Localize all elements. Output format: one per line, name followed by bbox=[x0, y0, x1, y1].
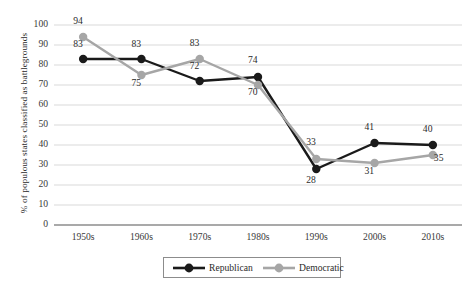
data-point-democratic-1990s[interactable] bbox=[312, 155, 320, 163]
y-tick-label: 60 bbox=[16, 98, 48, 109]
data-label-democratic-1990s: 33 bbox=[306, 136, 316, 147]
x-tick-label-1980s: 1980s bbox=[229, 231, 287, 242]
legend-label-democratic: Democratic bbox=[299, 262, 344, 273]
x-tick-label-1950s: 1950s bbox=[54, 231, 112, 242]
y-tick-label: 50 bbox=[16, 118, 48, 129]
data-label-democratic-1970s: 83 bbox=[190, 37, 200, 48]
chart-container: % of populous states classified as battl… bbox=[0, 0, 473, 287]
y-tick-label: 80 bbox=[16, 58, 48, 69]
legend-marker-democratic-icon bbox=[262, 261, 296, 275]
x-tick-label-1970s: 1970s bbox=[171, 231, 229, 242]
y-tick-label: 30 bbox=[16, 158, 48, 169]
legend-item-democratic[interactable]: Democratic bbox=[262, 258, 344, 277]
y-tick-label: 90 bbox=[16, 38, 48, 49]
x-tick-label-2000s: 2000s bbox=[346, 231, 404, 242]
data-label-democratic-1980s: 70 bbox=[248, 86, 258, 97]
data-label-democratic-2010s: 35 bbox=[434, 152, 444, 163]
x-tick-label-1990s: 1990s bbox=[287, 231, 345, 242]
data-point-republican-1990s[interactable] bbox=[312, 165, 320, 173]
data-label-republican-1950s: 83 bbox=[73, 38, 83, 49]
x-tick-label-1960s: 1960s bbox=[112, 231, 170, 242]
data-label-republican-1990s: 28 bbox=[306, 174, 316, 185]
data-label-republican-1980s: 74 bbox=[248, 54, 258, 65]
legend-marker-republican-icon bbox=[172, 261, 206, 275]
data-label-democratic-2000s: 31 bbox=[365, 165, 375, 176]
data-point-republican-1960s[interactable] bbox=[137, 55, 145, 63]
data-label-republican-1960s: 83 bbox=[131, 38, 141, 49]
plot-area bbox=[0, 0, 473, 287]
legend-item-republican[interactable]: Republican bbox=[172, 258, 253, 277]
y-tick-label: 20 bbox=[16, 178, 48, 189]
data-label-democratic-1960s: 75 bbox=[131, 77, 141, 88]
data-label-democratic-1950s: 94 bbox=[73, 15, 83, 26]
y-tick-label: 0 bbox=[16, 218, 48, 229]
data-label-republican-2010s: 40 bbox=[423, 123, 433, 134]
y-tick-label: 70 bbox=[16, 78, 48, 89]
data-point-republican-2010s[interactable] bbox=[429, 141, 437, 149]
data-point-republican-1980s[interactable] bbox=[254, 73, 262, 81]
x-tick-label-2010s: 2010s bbox=[404, 231, 462, 242]
series-group bbox=[79, 33, 437, 173]
y-tick-label: 100 bbox=[16, 18, 48, 29]
y-tick-label: 40 bbox=[16, 138, 48, 149]
data-label-republican-2000s: 41 bbox=[365, 121, 375, 132]
data-point-republican-2000s[interactable] bbox=[370, 139, 378, 147]
data-point-republican-1950s[interactable] bbox=[79, 55, 87, 63]
data-point-republican-1970s[interactable] bbox=[196, 77, 204, 85]
legend[interactable]: Republican Democratic bbox=[163, 257, 341, 278]
gridlines-group bbox=[54, 25, 462, 225]
legend-label-republican: Republican bbox=[209, 262, 253, 273]
data-label-republican-1970s: 72 bbox=[190, 60, 200, 71]
y-tick-label: 10 bbox=[16, 198, 48, 209]
